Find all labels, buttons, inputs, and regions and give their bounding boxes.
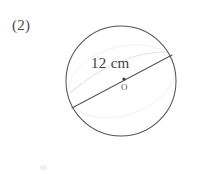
diameter-measurement-label: 12 cm (91, 56, 130, 71)
geometry-figure: (2) 12 cm O (0, 0, 199, 174)
center-point-dot (122, 77, 125, 80)
circle-diagram (0, 0, 199, 174)
scan-smudge (40, 165, 47, 170)
center-point-label: O (121, 83, 128, 92)
circle-outline (66, 26, 176, 136)
